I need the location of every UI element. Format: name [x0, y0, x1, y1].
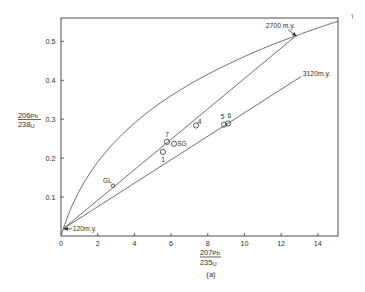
figure-caption: (a) [206, 270, 216, 279]
sample-label: 4 [198, 118, 202, 125]
series-lines [61, 21, 338, 236]
sample-label: 1 [161, 156, 165, 163]
sample-marker-icon [111, 184, 115, 188]
sample-point: SG [171, 140, 186, 147]
x-tick-label: 4 [132, 239, 136, 248]
sample-point: GL [103, 177, 115, 188]
x-tick-label: 8 [206, 239, 210, 248]
x-tick-label: 10 [240, 239, 248, 248]
y-tick-label: 0.2 [46, 154, 56, 163]
x-axis-label-denominator: 235U [200, 258, 217, 268]
y-tick-label: 0.3 [46, 115, 56, 124]
y-axis-label: 206Pb 238U [18, 111, 41, 130]
sample-marker-icon [164, 139, 169, 144]
sample-label: 5 [221, 113, 225, 120]
x-tick-label: 6 [169, 239, 173, 248]
stray-mark [352, 14, 353, 19]
y-axis-label-denominator: 238U [18, 120, 35, 130]
age-label: 120m.y. [73, 225, 97, 233]
x-tick-label: 14 [314, 239, 322, 248]
age-annotation: 3120m.y. [303, 70, 331, 78]
y-tick-label: 0.4 [46, 76, 56, 85]
discordia-2700-line [63, 36, 296, 229]
x-tick-label: 2 [96, 239, 100, 248]
sample-points: 17SG456GL [103, 112, 231, 188]
age-label: 3120m.y. [303, 70, 331, 78]
sample-label: SG [177, 140, 187, 147]
y-tick-label: 0.1 [46, 193, 56, 202]
y-tick-label: 0.5 [46, 37, 56, 46]
sample-label: 7 [165, 131, 169, 138]
age-annotation: 120m.y. [64, 225, 97, 233]
y-axis-label-numerator: 206Pb [18, 111, 38, 120]
arrow-icon [288, 29, 297, 36]
x-tick-label: 12 [277, 239, 285, 248]
concordia-chart: 206Pb 238U 207Pb 235U (a) 024681012140.1… [0, 0, 365, 292]
x-axis-label-numerator: 207Pb [200, 248, 220, 257]
sample-marker-icon [171, 141, 176, 146]
sample-label: 6 [227, 112, 231, 119]
sample-point: 6 [226, 112, 232, 126]
sample-point: 7 [164, 131, 169, 144]
discordia-3120-line [63, 76, 301, 228]
x-tick-label: 0 [59, 239, 63, 248]
sample-point: 1 [160, 149, 165, 163]
x-axis-label: 207Pb 235U [200, 248, 221, 268]
sample-label: GL [103, 177, 112, 184]
age-annotation: 2700 m.y. [266, 22, 297, 36]
sample-marker-icon [160, 149, 165, 154]
sample-marker-icon [226, 121, 231, 126]
figure: 206Pb 238U 207Pb 235U (a) 024681012140.1… [0, 0, 365, 292]
age-label: 2700 m.y. [266, 22, 295, 30]
